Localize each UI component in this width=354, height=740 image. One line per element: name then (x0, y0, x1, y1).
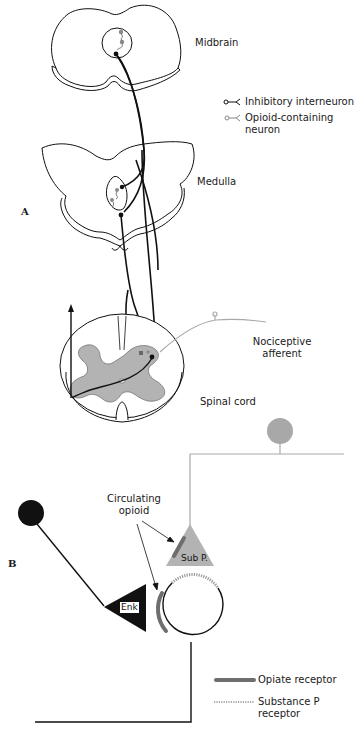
circulating-line1: Circulating (106, 493, 162, 505)
legend-substance-p-receptor-line1: Substance P (258, 696, 320, 708)
midbrain-label: Midbrain (195, 37, 238, 49)
medulla-label: Medulla (197, 176, 236, 188)
substance-p-afferent (190, 418, 344, 526)
legend-opioid-neuron-line2: neuron (245, 124, 280, 136)
enk-label: Enk (120, 602, 139, 613)
circulating-opioid-arrows (137, 521, 174, 590)
panel-a-letter: A (21, 206, 29, 217)
legend-opioid-neuron-line1: Opioid-containing (245, 112, 333, 124)
spinal-cord-section (60, 314, 184, 422)
legend-opiate-receptor: Opiate receptor (258, 674, 337, 686)
legend-a-symbols (224, 99, 240, 121)
panel-b-letter: B (8, 558, 16, 569)
afferent-cell-body (267, 418, 293, 444)
arrow-up-icon (68, 304, 74, 312)
legend-inhibitory-interneuron: Inhibitory interneuron (245, 96, 354, 108)
opiate-receptor-on-postsynaptic (158, 593, 166, 631)
circulating-opioid-label: Circulating opioid (106, 493, 162, 517)
opioid-neuron-icon (225, 115, 240, 121)
substance-p-receptor (172, 574, 218, 588)
circulating-line2: opioid (106, 505, 162, 517)
sub-p-label: Sub P. (181, 553, 208, 564)
legend-substance-p-receptor-line2: receptor (258, 708, 300, 720)
nociceptive-line2: afferent (252, 348, 312, 360)
midbrain-section (52, 5, 181, 91)
medulla-section (42, 142, 194, 250)
spinal-cord-label: Spinal cord (200, 396, 256, 408)
nociceptive-line1: Nociceptive (252, 336, 312, 348)
inhibitory-interneuron-icon (224, 99, 240, 105)
legend-b-symbols (214, 680, 254, 702)
nociceptive-afferent-label: Nociceptive afferent (252, 336, 312, 360)
